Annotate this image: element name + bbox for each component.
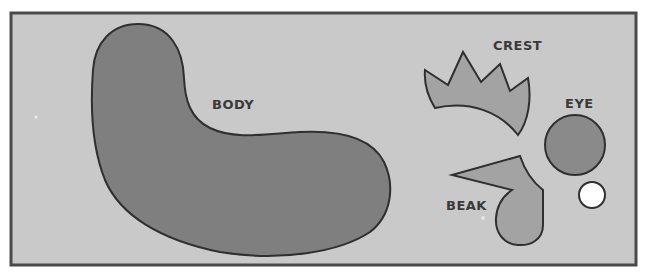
eye-label: EYE xyxy=(565,96,594,111)
speckle xyxy=(481,216,485,220)
speckle xyxy=(35,116,38,119)
eye-shape xyxy=(545,115,605,175)
crest-label: CREST xyxy=(493,38,542,53)
body-label: BODY xyxy=(212,97,254,112)
pupil-shape xyxy=(579,182,605,208)
pupil-piece xyxy=(579,182,605,208)
cutout-diagram: BODY CREST EYE BEAK xyxy=(0,0,646,278)
beak-label: BEAK xyxy=(446,198,487,213)
